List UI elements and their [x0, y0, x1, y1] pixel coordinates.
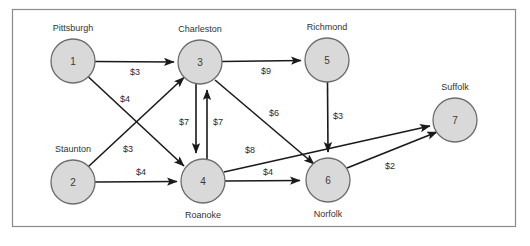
edge-label-staunton-charleston: $3	[123, 144, 133, 154]
node-staunton[interactable]: 2 Staunton	[51, 144, 95, 204]
node-number-4: 4	[200, 176, 206, 187]
node-pittsburgh[interactable]: 1 Pittsburgh	[51, 23, 95, 83]
node-roanoke[interactable]: 4 Roanoke	[181, 159, 225, 220]
node-charleston[interactable]: 3 Charleston	[178, 24, 222, 84]
node-number-5: 5	[324, 55, 330, 66]
edge-label-charleston-richmond: $9	[261, 66, 271, 76]
edge-label-charleston-norfolk: $6	[269, 108, 279, 118]
edge-label-roanoke-charleston: $7	[213, 117, 223, 127]
edge-label-roanoke-suffolk: $8	[245, 145, 255, 155]
node-label-pittsburgh: Pittsburgh	[53, 23, 94, 33]
node-label-staunton: Staunton	[55, 144, 91, 154]
edge-label-pittsburgh-roanoke: $4	[120, 94, 130, 104]
node-label-charleston: Charleston	[178, 24, 222, 34]
node-label-norfolk: Norfolk	[314, 209, 343, 219]
node-number-1: 1	[70, 56, 76, 67]
edge-label-roanoke-norfolk: $4	[263, 167, 273, 177]
node-number-3: 3	[197, 57, 203, 68]
node-number-7: 7	[452, 115, 458, 126]
network-svg: $3 $4 $3 $4 $9 $7 $7 $6 $3 $8 $4 $2 1 Pi…	[0, 0, 530, 246]
edge-pittsburgh-charleston	[95, 62, 174, 63]
edge-label-norfolk-suffolk: $2	[385, 161, 395, 171]
edge-charleston-richmond	[222, 61, 301, 62]
node-label-suffolk: Suffolk	[441, 82, 469, 92]
node-label-roanoke: Roanoke	[185, 210, 221, 220]
edge-label-staunton-roanoke: $4	[136, 167, 146, 177]
node-label-richmond: Richmond	[307, 22, 348, 32]
edge-label-charleston-roanoke: $7	[179, 117, 189, 127]
node-number-2: 2	[70, 177, 76, 188]
edge-staunton-roanoke	[95, 182, 177, 183]
node-number-6: 6	[325, 175, 331, 186]
network-diagram: $3 $4 $3 $4 $9 $7 $7 $6 $3 $8 $4 $2 1 Pi…	[0, 0, 530, 246]
edge-richmond-norfolk	[328, 82, 329, 152]
node-richmond[interactable]: 5 Richmond	[305, 22, 349, 82]
edge-roanoke-norfolk	[225, 181, 300, 182]
edge-label-richmond-norfolk: $3	[333, 111, 343, 121]
edge-label-pittsburgh-charleston: $3	[130, 67, 140, 77]
